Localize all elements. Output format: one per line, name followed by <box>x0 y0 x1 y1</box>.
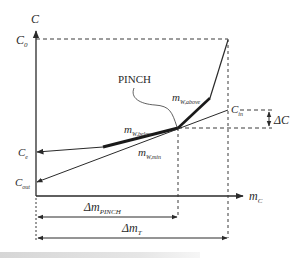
curve-to-ce <box>37 147 103 152</box>
mw-below-label: mW,below <box>124 123 152 137</box>
curve-upper-segment <box>210 40 228 98</box>
page-edge-shadow <box>0 252 200 258</box>
cout-label: Cout <box>15 176 30 190</box>
pinch-leader <box>133 88 177 127</box>
mw-min-line <box>37 110 228 182</box>
ce-label: Ce <box>18 146 28 160</box>
c0-label: C0 <box>16 33 28 49</box>
pinch-label: PINCH <box>118 73 151 85</box>
y-axis-label: C <box>31 12 40 26</box>
mw-min-label: mW,min <box>138 146 161 160</box>
pinch-diagram: C mC C0 ΔC Cin Ce Cout PINCH <box>0 0 299 258</box>
delta-c-label: ΔC <box>273 113 290 127</box>
delta-m-t-label: ΔmT <box>121 221 143 237</box>
x-axis-label: mC <box>249 189 263 205</box>
mw-above-label: mW,above <box>172 91 201 105</box>
delta-m-pinch-label: ΔmPINCH <box>83 200 122 216</box>
